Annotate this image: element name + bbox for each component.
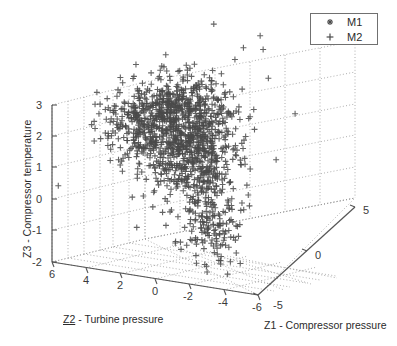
z1-axis-title: Z1 - Compressor pressure	[264, 320, 387, 331]
z3-tick-2: 2	[36, 131, 42, 142]
z2-tick-6: 6	[49, 269, 55, 280]
z2-tick-neg6: -6	[252, 302, 262, 313]
z2-tick-2: 2	[117, 280, 123, 291]
figure-canvas: 3 2 1 0 -1 -2 6 4 2 0 -2 -4 -6 -5 0 5 Z3…	[0, 0, 397, 346]
legend-label-m1: M1	[347, 15, 362, 30]
z1-tick-neg5: -5	[273, 300, 283, 311]
legend-item-m2[interactable]: M2	[311, 30, 377, 45]
legend[interactable]: M1 M2	[310, 13, 378, 45]
z2-tick-4: 4	[83, 275, 89, 286]
asterisk-marker-icon	[324, 16, 336, 28]
z3-tick-0: 0	[36, 194, 42, 205]
z2-axis-title-rest: - Turbine pressure	[75, 313, 163, 325]
z3-tick-neg1: -1	[32, 225, 42, 236]
z2-axis-title: Z2 - Turbine pressure	[63, 314, 163, 325]
legend-label-m2: M2	[347, 30, 362, 45]
z1-tick-0: 0	[315, 250, 321, 261]
legend-item-m1[interactable]: M1	[311, 15, 377, 30]
z2-axis-title-prefix: Z2	[63, 313, 75, 325]
z1-tick-5: 5	[363, 205, 369, 216]
z3-tick-3: 3	[36, 100, 42, 111]
z3-tick-1: 1	[36, 162, 42, 173]
z3-axis-title: Z3 - Compressor temperature	[22, 120, 33, 258]
scatter-3d-plot	[0, 0, 397, 346]
z2-tick-0: 0	[152, 286, 158, 297]
plus-marker-icon	[324, 31, 336, 43]
z2-tick-neg2: -2	[183, 291, 193, 302]
z2-tick-neg4: -4	[218, 297, 228, 308]
z3-tick-neg2: -2	[32, 257, 42, 268]
